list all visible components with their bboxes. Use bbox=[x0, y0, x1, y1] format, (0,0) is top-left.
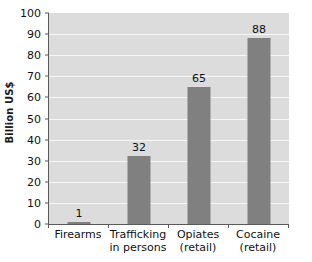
y-axis-tick-label: 60 bbox=[27, 91, 41, 104]
y-axis-tick-label: 20 bbox=[27, 175, 41, 188]
x-axis-category-label-line: Firearms bbox=[54, 228, 101, 241]
x-axis-category-label-line: Opiates bbox=[177, 228, 219, 241]
y-axis-tick-label: 70 bbox=[27, 70, 41, 83]
y-axis-tick-label: 0 bbox=[34, 218, 41, 231]
x-axis-category-label-line: (retail) bbox=[236, 241, 280, 254]
x-axis-category-labels: FirearmsTraffickingin personsOpiates(ret… bbox=[48, 228, 288, 260]
x-axis-category-label-line: Trafficking bbox=[110, 228, 167, 241]
bar-value-label: 32 bbox=[132, 141, 146, 154]
y-axis-tick-label: 100 bbox=[20, 7, 41, 20]
bar-value-label: 65 bbox=[192, 72, 206, 85]
plot-area: 1326588 bbox=[48, 13, 289, 225]
x-axis-category-label: Traffickingin persons bbox=[110, 228, 167, 254]
bars-layer: 1326588 bbox=[49, 13, 289, 224]
y-axis-title: Billion US$ bbox=[0, 0, 18, 224]
x-axis-category-label-line: (retail) bbox=[177, 241, 219, 254]
y-axis-tick-label: 40 bbox=[27, 133, 41, 146]
x-axis-category-label: Cocaine(retail) bbox=[236, 228, 280, 254]
bar-group: 65 bbox=[169, 13, 229, 224]
y-axis-tick-labels: 0102030405060708090100 bbox=[18, 13, 44, 224]
y-axis-tick-label: 50 bbox=[27, 112, 41, 125]
y-axis-tick-label: 90 bbox=[27, 28, 41, 41]
y-axis-tick-label: 30 bbox=[27, 154, 41, 167]
bar bbox=[248, 38, 271, 224]
x-axis-category-label: Opiates(retail) bbox=[177, 228, 219, 254]
x-axis-category-label-line: Cocaine bbox=[236, 228, 280, 241]
bar-group: 1 bbox=[49, 13, 109, 224]
x-axis-tick-mark bbox=[288, 224, 289, 228]
bar bbox=[128, 156, 151, 224]
bar-group: 32 bbox=[109, 13, 169, 224]
y-axis-tick-label: 10 bbox=[27, 196, 41, 209]
bar-value-label: 1 bbox=[76, 207, 83, 220]
bar-group: 88 bbox=[229, 13, 289, 224]
y-axis-tick-label: 80 bbox=[27, 49, 41, 62]
x-axis-category-label-line: in persons bbox=[110, 241, 167, 254]
bar-chart: Billion US$ 0102030405060708090100 13265… bbox=[0, 0, 312, 262]
x-axis-category-label: Firearms bbox=[54, 228, 101, 241]
y-axis-title-text: Billion US$ bbox=[4, 81, 15, 143]
bar bbox=[188, 87, 211, 224]
bar-value-label: 88 bbox=[252, 23, 266, 36]
